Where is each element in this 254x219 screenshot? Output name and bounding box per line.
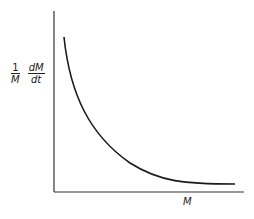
x-axis-label: M — [183, 196, 192, 207]
y-axis-label: 1 M dM dt — [11, 62, 45, 85]
chart-canvas — [0, 0, 254, 219]
data-curve — [64, 37, 235, 184]
y-label-fraction-1: 1 M — [11, 62, 20, 85]
y-label-fraction-2: dM dt — [28, 62, 45, 85]
